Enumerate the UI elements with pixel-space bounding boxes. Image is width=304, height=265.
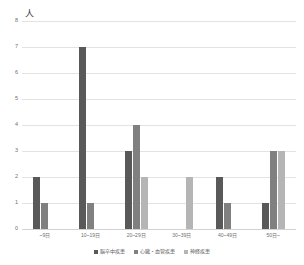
x-axis-tick-label: 20~29日 bbox=[113, 233, 159, 238]
y-axis-tick-label: 2 bbox=[0, 174, 18, 180]
chart-legend: 脳卒中疾患心臓・血管疾患神経疾患 bbox=[0, 249, 304, 254]
bar bbox=[41, 203, 48, 229]
bar bbox=[141, 177, 148, 229]
bar-group bbox=[33, 21, 56, 229]
plot-area bbox=[22, 21, 296, 229]
bar bbox=[33, 177, 40, 229]
x-axis-tick-label: ~9日 bbox=[22, 233, 68, 238]
bar bbox=[224, 203, 231, 229]
legend-label: 心臓・血管疾患 bbox=[140, 249, 175, 254]
legend-item[interactable]: 神経疾患 bbox=[184, 249, 210, 254]
bar-group bbox=[170, 21, 193, 229]
y-axis-tick-label: 3 bbox=[0, 148, 18, 154]
bar-group bbox=[216, 21, 239, 229]
legend-item[interactable]: 心臓・血管疾患 bbox=[134, 249, 175, 254]
gridline bbox=[22, 229, 296, 230]
bar bbox=[278, 151, 285, 229]
y-axis-tick-label: 4 bbox=[0, 122, 18, 128]
y-axis-tick-label: 8 bbox=[0, 18, 18, 24]
legend-label: 脳卒中疾患 bbox=[100, 249, 125, 254]
bar bbox=[270, 151, 277, 229]
y-axis-tick-label: 0 bbox=[0, 226, 18, 232]
bar bbox=[87, 203, 94, 229]
y-axis-tick-label: 1 bbox=[0, 200, 18, 206]
legend-label: 神経疾患 bbox=[190, 249, 210, 254]
y-axis-tick-label: 5 bbox=[0, 96, 18, 102]
x-axis-tick-label: 10~19日 bbox=[68, 233, 114, 238]
bar bbox=[133, 125, 140, 229]
bar-chart: 人 012345678 ~9日10~19日20~29日30~39日40~49日5… bbox=[0, 0, 304, 265]
bar-series-layer bbox=[22, 21, 296, 229]
bar bbox=[216, 177, 223, 229]
bar-group bbox=[125, 21, 148, 229]
bar bbox=[79, 47, 86, 229]
x-axis-tick-label: 50日~ bbox=[250, 233, 296, 238]
legend-item[interactable]: 脳卒中疾患 bbox=[94, 249, 125, 254]
bar bbox=[125, 151, 132, 229]
legend-swatch-icon bbox=[184, 250, 188, 254]
bar bbox=[262, 203, 269, 229]
y-axis-tick-label: 6 bbox=[0, 70, 18, 76]
bar bbox=[186, 177, 193, 229]
y-axis-unit-label: 人 bbox=[25, 10, 34, 19]
bar-group bbox=[262, 21, 285, 229]
legend-swatch-icon bbox=[134, 250, 138, 254]
bar-group bbox=[79, 21, 102, 229]
x-axis-tick-label: 30~39日 bbox=[159, 233, 205, 238]
legend-swatch-icon bbox=[94, 250, 98, 254]
y-axis-tick-label: 7 bbox=[0, 44, 18, 50]
x-axis-tick-label: 40~49日 bbox=[205, 233, 251, 238]
